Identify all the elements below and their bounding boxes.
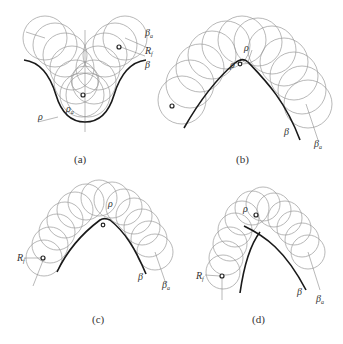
panel-c: Rf ρ β βa (c) xyxy=(16,180,173,326)
label-rho: ρ xyxy=(37,111,43,122)
caption-c: (c) xyxy=(92,313,105,326)
label-rho-top-b: ρ xyxy=(243,42,249,53)
caption-d: (d) xyxy=(252,313,265,326)
caption-a: (a) xyxy=(74,153,87,166)
panel-a: βa Rf β ρ ρa (a) xyxy=(23,16,154,166)
panel-b: ρ ρ β βa (b) xyxy=(158,16,332,166)
label-beta: β xyxy=(144,59,150,70)
center-point-rho-c xyxy=(101,223,105,227)
profile-curve-left-d xyxy=(240,232,260,293)
label-Rf-d: Rf xyxy=(195,270,205,282)
figure-canvas: βa Rf β ρ ρa (a) ρ ρ β βa (b) xyxy=(0,0,343,344)
center-point-rho-a xyxy=(81,93,85,97)
label-beta-b: β xyxy=(283,126,289,137)
label-beta-c: β xyxy=(137,271,143,282)
center-point-Rf-c xyxy=(41,256,45,260)
label-Rf-c: Rf xyxy=(16,252,26,264)
label-rho-c: ρ xyxy=(107,198,113,209)
label-rho-a: ρa xyxy=(65,103,74,115)
panel-d: Rf ρ β βa (d) xyxy=(195,187,325,326)
leader-lines-b xyxy=(248,50,318,140)
label-rho-left-b: ρ xyxy=(229,59,235,70)
caption-b: (b) xyxy=(236,153,249,166)
label-rho-d: ρ xyxy=(242,203,248,214)
center-point-Rf-d xyxy=(220,274,224,278)
label-Rf: Rf xyxy=(144,45,154,57)
label-beta-a: βa xyxy=(144,27,153,39)
envelope-circles-b xyxy=(158,16,332,128)
envelope-circles-c xyxy=(26,180,173,276)
profile-curve-beta-d xyxy=(244,226,306,290)
center-point-Rf-a xyxy=(117,45,121,49)
center-point-rho-b xyxy=(238,62,242,66)
label-beta-a-b: βa xyxy=(313,138,322,150)
center-point-rho-d xyxy=(254,213,258,217)
label-beta-a-d: βa xyxy=(315,293,324,305)
center-point-Rf-b xyxy=(170,104,174,108)
label-beta-a-c: βa xyxy=(161,279,170,291)
label-beta-d: β xyxy=(296,286,302,297)
